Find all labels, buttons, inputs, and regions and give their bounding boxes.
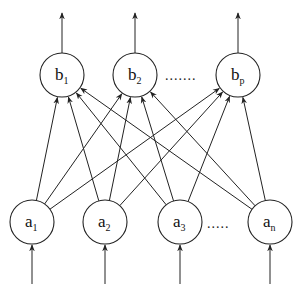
- edge-a2-b2: [109, 98, 130, 201]
- node-b2: b2: [113, 53, 157, 97]
- edge-a1-b1: [36, 98, 57, 201]
- network-diagram: b1b2bpa1a2a3an ....... .....: [0, 0, 303, 295]
- nodes: b1b2bpa1a2a3an: [10, 53, 292, 244]
- connection-edges: [36, 88, 265, 209]
- edge-a3-bp: [188, 96, 229, 201]
- edge-an-bp: [243, 97, 265, 200]
- node-an: an: [248, 200, 292, 244]
- node-bp: bp: [216, 53, 260, 97]
- node-a1: a1: [10, 200, 54, 244]
- node-a2: a2: [83, 200, 127, 244]
- edge-an-b1: [81, 88, 252, 209]
- edge-a1-bp: [50, 88, 219, 209]
- edge-a3-b1: [76, 93, 166, 205]
- node-a3: a3: [158, 200, 202, 244]
- edge-a3-b2: [142, 97, 174, 201]
- diagram-svg: b1b2bpa1a2a3an ....... .....: [0, 0, 303, 295]
- output-ellipsis: .......: [165, 68, 197, 83]
- node-b1: b1: [40, 53, 84, 97]
- input-ellipsis: .....: [207, 216, 230, 231]
